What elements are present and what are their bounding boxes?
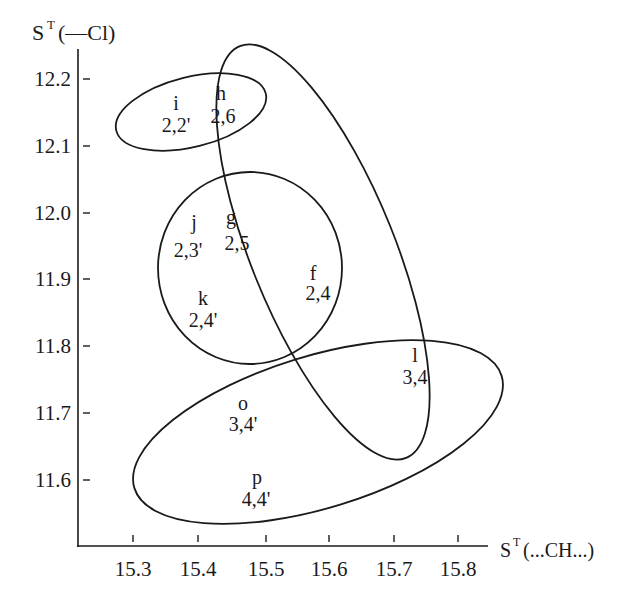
x-tick-label: 15.8 [440, 557, 477, 581]
point-id-o: o [238, 392, 248, 414]
y-ticks [83, 79, 90, 480]
point-label-l: 3,4 [403, 366, 428, 388]
point-id-p: p [252, 466, 262, 489]
x-tick-label: 15.4 [180, 557, 217, 581]
point-id-j: j [190, 211, 197, 234]
point-id-g: g [226, 206, 236, 229]
point-label-k: 2,4' [189, 309, 218, 331]
y-tick-labels: 12.2 12.1 12.0 11.9 11.8 11.7 11.6 [34, 67, 71, 492]
x-ticks [133, 535, 458, 542]
point-id-h: h [216, 82, 226, 104]
y-tick-label: 12.0 [34, 201, 71, 225]
point-label-j: 2,3' [174, 239, 203, 261]
point-label-g: 2,5 [225, 232, 250, 254]
x-tick-label: 15.7 [376, 557, 413, 581]
x-tick-label: 15.3 [115, 557, 152, 581]
y-axis-title: S T (—Cl) [32, 17, 115, 45]
y-tick-label: 12.1 [34, 134, 71, 158]
x-axis-title: S T (...CH...) [500, 535, 594, 562]
point-id-i: i [173, 92, 179, 114]
y-axis-title-main: S [32, 20, 44, 45]
x-tick-label: 15.5 [248, 557, 285, 581]
point-id-f: f [310, 262, 317, 284]
point-label-f: 2,4 [306, 282, 331, 304]
point-label-p: 4,4' [242, 488, 271, 510]
x-tick-label: 15.6 [311, 557, 348, 581]
diagram-canvas: 12.2 12.1 12.0 11.9 11.8 11.7 11.6 15.3 … [0, 0, 637, 595]
x-axis-title-main: S [500, 539, 511, 561]
y-axis-title-sup: T [47, 17, 55, 32]
x-axis-title-sup: T [513, 535, 521, 549]
y-tick-label: 11.6 [35, 468, 71, 492]
point-label-h: 2,6 [211, 105, 236, 127]
y-tick-label: 11.9 [35, 267, 71, 291]
point-id-k: k [198, 287, 208, 309]
small-ellipse [108, 59, 274, 164]
y-axis-title-rest: (—Cl) [58, 20, 115, 45]
bottom-ellipse [112, 303, 524, 561]
point-id-l: l [412, 344, 418, 366]
y-tick-label: 11.7 [35, 401, 71, 425]
point-label-i: 2,2' [162, 114, 191, 136]
point-label-o: 3,4' [229, 413, 258, 435]
y-tick-label: 11.8 [35, 334, 71, 358]
y-tick-label: 12.2 [34, 67, 71, 91]
x-axis-title-rest: (...CH...) [523, 539, 594, 562]
x-tick-labels: 15.3 15.4 15.5 15.6 15.7 15.8 [115, 557, 477, 581]
